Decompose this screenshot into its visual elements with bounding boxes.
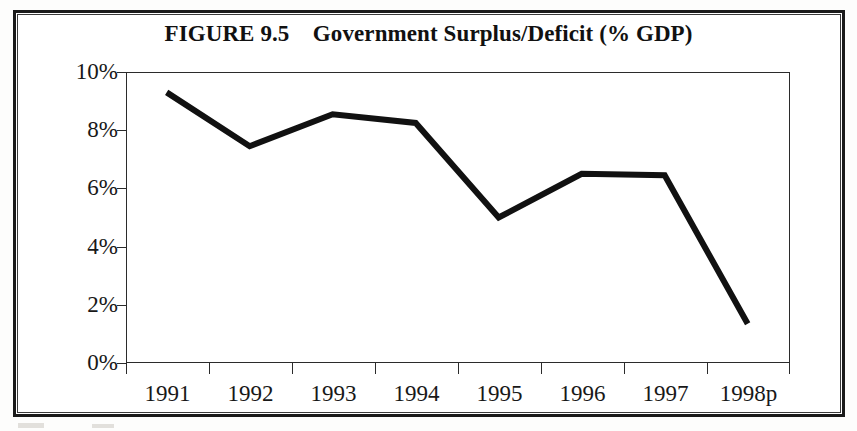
x-axis-tick-label: 1992 bbox=[228, 381, 274, 407]
x-axis-tick-label: 1991 bbox=[145, 381, 191, 407]
x-axis-tick-mark bbox=[458, 363, 459, 374]
y-axis-tick-mark bbox=[117, 72, 126, 73]
x-axis-tick-mark bbox=[292, 363, 293, 374]
y-axis-tick-mark bbox=[117, 188, 126, 189]
line-chart-plot bbox=[126, 72, 790, 363]
data-series-line bbox=[167, 92, 748, 323]
x-axis-tick-mark bbox=[375, 363, 376, 374]
x-axis-tick-label: 1997 bbox=[643, 381, 689, 407]
x-axis-tick-mark bbox=[624, 363, 625, 374]
y-axis-tick-label: 10% bbox=[46, 59, 118, 85]
page-title: FIGURE 9.5 Government Surplus/Deficit (%… bbox=[0, 21, 857, 47]
x-axis-tick-label: 1993 bbox=[311, 381, 357, 407]
y-axis-tick-mark bbox=[117, 247, 126, 248]
x-axis-tick-label: 1996 bbox=[560, 381, 606, 407]
x-axis-tick-label: 1995 bbox=[477, 381, 523, 407]
x-axis-tick-label: 1994 bbox=[394, 381, 440, 407]
scan-artifact bbox=[18, 423, 44, 428]
y-axis-tick-label: 0% bbox=[46, 350, 118, 376]
y-axis-tick-label: 4% bbox=[46, 234, 118, 260]
y-axis-tick-label: 2% bbox=[46, 292, 118, 318]
y-axis-labels: 0%2%4%6%8%10% bbox=[38, 72, 118, 363]
x-axis-tick-mark bbox=[209, 363, 210, 374]
x-axis-tick-label: 1998p bbox=[720, 381, 778, 407]
x-axis-tick-mark bbox=[707, 363, 708, 374]
y-axis-tick-mark bbox=[117, 305, 126, 306]
figure-container: FIGURE 9.5 Government Surplus/Deficit (%… bbox=[0, 0, 857, 431]
x-axis-tick-mark bbox=[789, 363, 790, 374]
y-axis-tick-mark bbox=[117, 363, 126, 364]
x-axis-tick-mark bbox=[541, 363, 542, 374]
y-axis-tick-marks bbox=[117, 72, 127, 363]
y-axis-tick-label: 8% bbox=[46, 117, 118, 143]
x-axis-labels: 19911992199319941995199619971998p bbox=[126, 381, 790, 411]
x-axis-tick-marks bbox=[126, 363, 790, 375]
y-axis-tick-mark bbox=[117, 130, 126, 131]
scan-artifact bbox=[92, 424, 114, 428]
x-axis-tick-mark bbox=[126, 363, 127, 374]
y-axis-tick-label: 6% bbox=[46, 175, 118, 201]
